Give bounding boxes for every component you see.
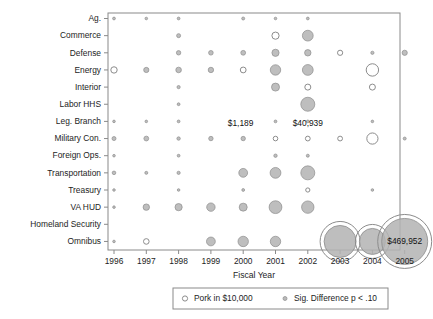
bubble-filled xyxy=(207,237,216,246)
y-axis-label: Energy xyxy=(74,65,101,75)
bubble-filled xyxy=(274,154,277,157)
bubble-filled xyxy=(371,51,374,54)
bubble-filled xyxy=(269,201,282,214)
x-axis-label: 1996 xyxy=(105,256,124,266)
data-annotation: $469,952 xyxy=(387,236,422,246)
bubble-filled xyxy=(403,137,406,140)
bubble-filled xyxy=(143,204,149,210)
y-axis-label: Treasury xyxy=(68,185,102,195)
bubble-open xyxy=(240,67,246,73)
bubble-filled xyxy=(144,136,149,141)
bubble-filled xyxy=(177,137,180,140)
y-axis-labels-group: Ag.CommerceDefenseEnergyInteriorLabor HH… xyxy=(30,13,102,246)
legend-group: Pork in $10,000Sig. Difference p < .10 xyxy=(173,288,388,309)
bubble-filled xyxy=(241,50,246,55)
bubble-open xyxy=(305,84,311,90)
bubble-filled xyxy=(177,103,180,106)
bubble-filled xyxy=(242,189,245,192)
bubble-filled xyxy=(272,83,280,91)
x-axis-label: 2001 xyxy=(266,256,285,266)
bubble-filled xyxy=(306,17,309,20)
bubble-filled xyxy=(302,30,313,41)
y-axis-label: Omnibus xyxy=(67,236,101,246)
bubble-filled xyxy=(176,51,180,55)
bubble-filled xyxy=(207,203,215,211)
x-axis-label: 1998 xyxy=(169,256,188,266)
y-axis-label: Labor HHS xyxy=(60,99,102,109)
y-axis-label: Ag. xyxy=(88,13,101,23)
bubble-filled xyxy=(270,65,280,75)
bubble-filled xyxy=(177,120,180,123)
bubble-filled xyxy=(113,120,116,123)
bubble-filled xyxy=(302,65,313,76)
bubble-filled xyxy=(270,236,280,246)
plot-frame-group xyxy=(108,13,400,250)
plot-area-border xyxy=(108,13,400,250)
bubble-filled xyxy=(112,137,116,141)
bubble-open xyxy=(369,84,375,90)
bubble-filled xyxy=(272,49,279,56)
bubble-open xyxy=(272,32,279,39)
x-axis-label: 2000 xyxy=(234,256,253,266)
bubble-open xyxy=(306,188,310,192)
bubble-open xyxy=(305,136,310,141)
y-axis-label: Foreign Ops. xyxy=(53,150,101,160)
bubbles-group xyxy=(111,17,432,268)
bubble-open xyxy=(338,136,343,141)
bubble-filled xyxy=(301,97,315,111)
bubble-filled xyxy=(305,50,311,56)
bubble-filled xyxy=(144,67,149,72)
bubble-filled xyxy=(112,171,116,175)
bubble-filled xyxy=(177,17,180,20)
bubble-filled xyxy=(306,154,309,157)
legend-label-significance: Sig. Difference p < .10 xyxy=(294,293,377,303)
bubble-open xyxy=(367,133,378,144)
bubble-filled xyxy=(113,154,116,157)
bubble-filled xyxy=(177,154,180,157)
bubble-filled xyxy=(177,86,180,89)
bubble-filled xyxy=(238,236,248,246)
bubble-open xyxy=(111,67,117,73)
bubble-open xyxy=(144,239,150,245)
bubble-filled xyxy=(274,17,277,20)
bubble-filled xyxy=(270,167,281,178)
legend-marker-filled-circle-icon xyxy=(283,297,287,301)
bubble-filled xyxy=(241,136,245,140)
x-axis-label: 2002 xyxy=(298,256,317,266)
x-axis-label: 1999 xyxy=(202,256,221,266)
bubble-filled xyxy=(113,17,116,20)
y-axis-label: Military Con. xyxy=(54,133,101,143)
x-axis-title: Fiscal Year xyxy=(233,270,275,280)
bubble-filled xyxy=(175,204,182,211)
y-axis-label: Defense xyxy=(70,48,102,58)
data-annotation: $40,939 xyxy=(293,118,324,128)
axis-ticks-group xyxy=(104,19,405,255)
bubble-filled xyxy=(324,225,356,257)
x-axis-label: 2003 xyxy=(331,256,350,266)
bubble-filled xyxy=(302,201,314,213)
bubble-filled xyxy=(209,51,214,56)
x-axis-labels-group: 1996199719981999200020012002200320042005… xyxy=(105,256,415,280)
bubble-filled xyxy=(274,120,277,123)
bubble-filled xyxy=(371,120,374,123)
x-axis-label: 2005 xyxy=(395,256,414,266)
bubble-filled xyxy=(239,203,247,211)
bubble-filled xyxy=(208,67,213,72)
y-axis-label: Commerce xyxy=(60,30,101,40)
y-axis-label: Homeland Security xyxy=(30,219,102,229)
bubble-chart: Ag.CommerceDefenseEnergyInteriorLabor HH… xyxy=(0,0,433,319)
bubble-open xyxy=(338,50,343,55)
y-axis-label: Transportation xyxy=(47,168,101,178)
bubble-open xyxy=(273,136,278,141)
data-annotation: $1,189 xyxy=(228,118,254,128)
x-axis-label: 1997 xyxy=(137,256,156,266)
bubble-filled xyxy=(301,166,315,180)
x-axis-label: 2004 xyxy=(363,256,382,266)
bubble-filled xyxy=(402,50,407,55)
bubble-filled xyxy=(371,189,374,192)
y-axis-label: Leg. Branch xyxy=(56,116,102,126)
bubble-filled xyxy=(176,67,182,73)
bubble-filled xyxy=(177,189,180,192)
y-axis-label: VA HUD xyxy=(70,202,101,212)
bubble-filled xyxy=(113,206,116,209)
